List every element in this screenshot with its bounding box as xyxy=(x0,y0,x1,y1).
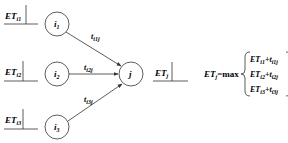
node-i3: i3 xyxy=(45,115,69,139)
svg-text:ETi2: ETi2 xyxy=(4,67,21,78)
et-j-label: ETj xyxy=(153,62,188,81)
node-i2: i2 xyxy=(45,62,69,86)
edge-i2-j: ti2j xyxy=(69,63,118,74)
et-i1-label: ETi1 xyxy=(4,5,38,24)
formula: ETj=max ETi1+ti1j ETi2+ti2j ETi3+ti3j xyxy=(203,52,288,96)
formula-term-1: ETi1+ti1j xyxy=(249,55,278,65)
edge-i1-j: ti1j xyxy=(66,32,121,66)
svg-text:ETj: ETj xyxy=(154,68,169,79)
node-j: j xyxy=(119,62,143,86)
svg-text:ti3j: ti3j xyxy=(84,95,93,105)
svg-text:ti2j: ti2j xyxy=(84,63,93,73)
et-i2-label: ETi2 xyxy=(4,61,38,81)
network-diagram: ETi1 ETi2 ETi3 ti1j ti2j ti3j i1 i2 i3 xyxy=(0,0,288,143)
formula-term-2: ETi2+ti2j xyxy=(249,70,278,80)
edge-i3-j: ti3j xyxy=(68,84,122,121)
svg-text:ETi3: ETi3 xyxy=(4,115,21,126)
svg-text:ti1j: ti1j xyxy=(91,32,100,42)
node-i1: i1 xyxy=(45,12,69,36)
svg-text:ETi1: ETi1 xyxy=(4,11,21,22)
formula-term-3: ETi3+ti3j xyxy=(249,85,278,95)
et-i3-label: ETi3 xyxy=(4,109,38,129)
svg-text:ETj=max: ETj=max xyxy=(203,69,239,80)
